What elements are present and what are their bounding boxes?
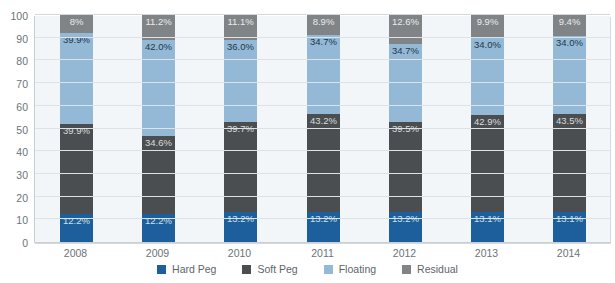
legend-item[interactable]: Residual <box>402 264 458 275</box>
bar-segment-value-label: 36.0% <box>227 40 254 52</box>
legend-item[interactable]: Soft Peg <box>242 264 297 275</box>
bar-group[interactable]: 8.9%34.7%43.2%13.2% <box>307 15 340 242</box>
bar-segment-soft-peg[interactable]: 39.9% <box>60 124 93 215</box>
legend-item-label: Residual <box>417 264 458 275</box>
bar-segment-value-label: 43.2% <box>310 114 337 126</box>
bar-segment-hard-peg[interactable]: 13.1% <box>471 212 504 242</box>
gridline <box>35 196 610 197</box>
legend-item-label: Floating <box>339 264 376 275</box>
bar-segment-value-label: 39.9% <box>63 33 90 45</box>
bar-segment-value-label: 12.6% <box>392 15 419 27</box>
bar-segment-value-label: 11.2% <box>145 15 171 27</box>
bar-segment-value-label: 9.9% <box>477 15 499 27</box>
x-axis-tick-label: 2014 <box>539 247 599 259</box>
stacked-bar-chart: 8%39.9%39.9%12.2%11.2%42.0%34.6%12.2%11.… <box>0 0 615 283</box>
y-axis-tick-label: 10 <box>0 215 28 225</box>
gridline <box>35 150 610 151</box>
gridline <box>35 37 610 38</box>
y-axis-tick-label: 0 <box>0 238 28 248</box>
x-axis-tick-label: 2008 <box>46 247 106 259</box>
x-axis-tick-label: 2012 <box>375 247 435 259</box>
bar-segment-hard-peg[interactable]: 13.1% <box>553 212 586 242</box>
plot-area: 8%39.9%39.9%12.2%11.2%42.0%34.6%12.2%11.… <box>34 16 610 243</box>
y-axis-tick-label: 60 <box>0 102 28 112</box>
bar-segment-floating[interactable]: 39.9% <box>60 33 93 124</box>
gridline <box>35 105 610 106</box>
x-axis-tick-label: 2011 <box>293 247 353 259</box>
bar-segment-value-label: 34.0% <box>556 36 583 48</box>
legend-swatch-icon <box>324 265 333 274</box>
bar-segment-hard-peg[interactable]: 13.2% <box>224 212 257 242</box>
gridline <box>35 14 610 15</box>
chart-legend: Hard PegSoft PegFloatingResidual <box>0 264 615 275</box>
bar-segment-value-label: 43.5% <box>556 114 583 126</box>
gridline <box>35 128 610 129</box>
clipped-title-strip <box>0 0 615 9</box>
y-axis-tick-label: 30 <box>0 170 28 180</box>
bar-segment-residual[interactable]: 8% <box>60 15 93 33</box>
legend-item[interactable]: Hard Peg <box>157 264 216 275</box>
y-axis-tick-label: 100 <box>0 11 28 21</box>
y-axis-tick-label: 20 <box>0 193 28 203</box>
bar-segment-value-label: 39.9% <box>63 124 90 136</box>
bar-segment-hard-peg[interactable]: 13.2% <box>389 212 422 242</box>
legend-swatch-icon <box>402 265 411 274</box>
bar-segment-soft-peg[interactable]: 43.2% <box>307 114 340 212</box>
bar-segment-value-label: 8.9% <box>313 15 335 27</box>
bar-segment-floating[interactable]: 34.0% <box>471 38 504 115</box>
bar-segment-soft-peg[interactable]: 42.9% <box>471 115 504 212</box>
bar-group[interactable]: 9.9%34.0%42.9%13.1% <box>471 15 504 242</box>
y-axis-tick-label: 90 <box>0 34 28 44</box>
bar-segment-value-label: 42.0% <box>145 40 172 52</box>
bar-segment-value-label: 12.2% <box>145 214 172 226</box>
y-axis-tick-label: 80 <box>0 56 28 66</box>
legend-item-label: Soft Peg <box>257 264 297 275</box>
bar-segment-hard-peg[interactable]: 13.2% <box>307 212 340 242</box>
bar-group[interactable]: 12.6%34.7%39.5%13.2% <box>389 15 422 242</box>
bar-segment-soft-peg[interactable]: 39.5% <box>389 122 422 212</box>
legend-swatch-icon <box>157 265 166 274</box>
bar-segment-floating[interactable]: 42.0% <box>142 40 175 135</box>
bar-group[interactable]: 9.4%34.0%43.5%13.1% <box>553 15 586 242</box>
bar-segment-floating[interactable]: 36.0% <box>224 40 257 122</box>
legend-item-label: Hard Peg <box>172 264 216 275</box>
bar-segment-value-label: 12.2% <box>63 214 90 226</box>
bar-segment-residual[interactable]: 9.9% <box>471 15 504 37</box>
legend-swatch-icon <box>242 265 251 274</box>
bar-segment-floating[interactable]: 34.0% <box>553 36 586 113</box>
bar-segment-floating[interactable]: 34.7% <box>307 35 340 114</box>
y-axis-tick-label: 40 <box>0 147 28 157</box>
bar-group[interactable]: 8%39.9%39.9%12.2% <box>60 15 93 242</box>
y-axis-tick-label: 50 <box>0 125 28 135</box>
bar-segment-soft-peg[interactable]: 39.7% <box>224 122 257 212</box>
gridline <box>35 173 610 174</box>
bar-group[interactable]: 11.1%36.0%39.7%13.2% <box>224 15 257 242</box>
bar-group[interactable]: 11.2%42.0%34.6%12.2% <box>142 15 175 242</box>
legend-item[interactable]: Floating <box>324 264 376 275</box>
bar-segment-value-label: 11.1% <box>227 15 253 27</box>
x-axis-tick-label: 2013 <box>457 247 517 259</box>
bar-segment-soft-peg[interactable]: 34.6% <box>142 136 175 215</box>
bar-segment-value-label: 42.9% <box>474 115 501 127</box>
bar-segment-value-label: 34.0% <box>474 38 501 50</box>
bar-segment-value-label: 8% <box>70 15 84 27</box>
x-axis-tick-label: 2009 <box>128 247 188 259</box>
bar-segment-residual[interactable]: 8.9% <box>307 15 340 35</box>
bars-layer: 8%39.9%39.9%12.2%11.2%42.0%34.6%12.2%11.… <box>35 16 610 242</box>
gridline <box>35 82 610 83</box>
bar-segment-residual[interactable]: 9.4% <box>553 15 586 36</box>
gridline <box>35 218 610 219</box>
x-axis-tick-label: 2010 <box>210 247 270 259</box>
bar-segment-residual[interactable]: 12.6% <box>389 15 422 44</box>
bar-segment-value-label: 9.4% <box>559 15 581 27</box>
bar-segment-value-label: 34.7% <box>392 44 419 56</box>
bar-segment-value-label: 34.6% <box>145 136 172 148</box>
y-axis-tick-label: 70 <box>0 79 28 89</box>
gridline <box>35 59 610 60</box>
